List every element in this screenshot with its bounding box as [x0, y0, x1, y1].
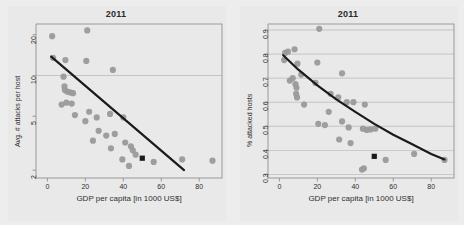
y-axis-label-right: % attacked hosts	[246, 94, 253, 147]
y-tick-label: 0.8	[262, 53, 269, 63]
y-tick-label: 0.6	[262, 101, 269, 111]
chart-panel-left: 2011 Avg. # attacks per host GDP per cap…	[0, 0, 232, 225]
x-axis-label-right: GDP per capita [in 1000 US$]	[268, 194, 454, 203]
y-tick-label: 0.7	[262, 77, 269, 87]
x-tick-label: 20	[78, 183, 92, 190]
y-tick-label: 0.3	[262, 174, 269, 184]
x-tick-label: 0	[40, 183, 54, 190]
plot-area-left	[0, 0, 232, 225]
y-tick-label: 2	[30, 175, 37, 179]
chart-panel-right: 2011 % attacked hosts GDP per capita [in…	[232, 0, 464, 225]
x-tick-label: 80	[424, 183, 438, 190]
y-axis-label-left: Avg. # attacks per host	[14, 76, 21, 147]
y-tick-label: 0.5	[262, 126, 269, 136]
x-tick-label: 40	[116, 183, 130, 190]
x-axis-label-left: GDP per capita [in 1000 US$]	[36, 194, 222, 203]
x-tick-label: 60	[154, 183, 168, 190]
x-tick-label: 40	[348, 183, 362, 190]
y-tick-label: 10	[30, 77, 37, 85]
x-tick-label: 60	[386, 183, 400, 190]
y-tick-label: 5	[30, 121, 37, 125]
x-tick-label: 80	[192, 183, 206, 190]
y-tick-label: 20	[30, 36, 37, 44]
x-tick-label: 0	[272, 183, 286, 190]
y-tick-label: 0.9	[262, 29, 269, 39]
figure-root: 2011 Avg. # attacks per host GDP per cap…	[0, 0, 464, 225]
x-tick-label: 20	[310, 183, 324, 190]
y-tick-label: 0.4	[262, 150, 269, 160]
